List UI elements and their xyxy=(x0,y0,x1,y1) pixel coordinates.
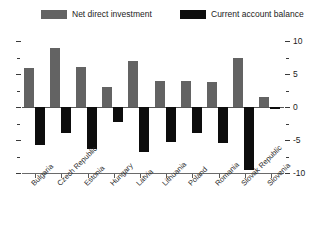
bar xyxy=(192,107,202,133)
y-axis-minor-tick xyxy=(17,58,20,59)
legend-label-net-direct-investment: Net direct investment xyxy=(72,9,152,19)
y-axis-tick xyxy=(16,140,21,141)
bar-group xyxy=(127,30,153,185)
y-axis-minor-tick xyxy=(286,157,289,158)
legend-swatch-black xyxy=(180,10,206,19)
bar xyxy=(207,82,217,107)
legend-entry-current-account-balance: Current account balance xyxy=(180,9,304,19)
y-axis-tick xyxy=(285,107,290,108)
bar xyxy=(155,81,165,107)
y-axis-tick xyxy=(285,41,290,42)
bar xyxy=(76,67,86,107)
y-axis-label: -10 xyxy=(293,169,305,178)
legend-entry-net-direct-investment: Net direct investment xyxy=(41,9,152,19)
bar xyxy=(270,107,280,109)
y-axis-label: 10 xyxy=(293,37,302,46)
bar-group xyxy=(205,30,231,185)
y-axis-minor-tick xyxy=(286,58,289,59)
bar xyxy=(61,107,71,133)
y-axis-tick xyxy=(16,173,21,174)
bar-group xyxy=(48,30,74,185)
bar-chart: Net direct investment Current account ba… xyxy=(0,0,329,240)
bar xyxy=(87,107,97,149)
legend-swatch-gray xyxy=(41,10,67,19)
bar xyxy=(24,68,34,107)
bar xyxy=(233,58,243,108)
bar xyxy=(50,48,60,107)
y-axis-label: 0 xyxy=(293,103,298,112)
bar xyxy=(35,107,45,145)
bar xyxy=(139,107,149,152)
bar xyxy=(259,97,269,107)
y-axis-minor-tick xyxy=(17,124,20,125)
y-axis-minor-tick xyxy=(286,124,289,125)
y-axis-minor-tick xyxy=(17,157,20,158)
legend-label-current-account-balance: Current account balance xyxy=(211,9,304,19)
bar xyxy=(128,61,138,107)
bar-group xyxy=(153,30,179,185)
y-axis-tick xyxy=(285,74,290,75)
bar xyxy=(244,107,254,170)
bar xyxy=(113,107,123,122)
y-axis-tick xyxy=(16,74,21,75)
y-axis-tick xyxy=(16,41,21,42)
y-axis-label: -5 xyxy=(293,136,301,145)
y-axis-label: 5 xyxy=(293,70,298,79)
bar xyxy=(181,81,191,107)
y-axis-minor-tick xyxy=(17,91,20,92)
y-axis-minor-tick xyxy=(286,91,289,92)
chart-legend: Net direct investment Current account ba… xyxy=(0,9,329,25)
bar xyxy=(218,107,228,143)
y-axis-tick xyxy=(285,140,290,141)
plot-area xyxy=(22,30,284,185)
y-axis-tick xyxy=(16,107,21,108)
bar-group xyxy=(22,30,48,185)
bar-group xyxy=(101,30,127,185)
bar xyxy=(166,107,176,142)
bar xyxy=(102,87,112,107)
